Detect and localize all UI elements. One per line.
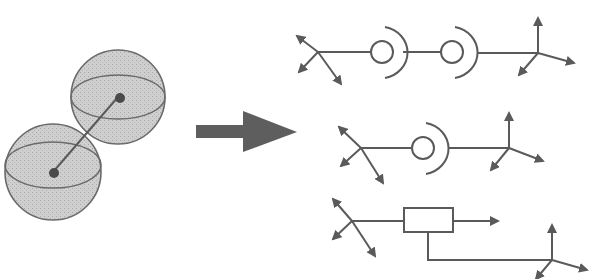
block-element xyxy=(404,208,453,232)
ball-socket-joint-icon xyxy=(371,27,408,78)
transform-arrow-icon xyxy=(196,111,297,152)
coordinate-frame-icon xyxy=(519,18,574,75)
coordinate-frame-icon xyxy=(536,225,587,279)
coordinate-frame-icon xyxy=(339,127,383,183)
representation-row-1 xyxy=(297,18,574,84)
coordinate-frame-icon xyxy=(297,36,341,84)
diagram-canvas xyxy=(0,0,592,279)
ball-socket-joint-icon xyxy=(412,123,449,174)
lower-sphere-center xyxy=(49,168,59,178)
representation-row-3 xyxy=(333,199,587,279)
representation-row-2 xyxy=(339,113,543,183)
coordinate-frame-icon xyxy=(333,199,375,256)
coordinate-frame-icon xyxy=(491,113,543,170)
two-sphere-model xyxy=(5,50,165,220)
ball-socket-joint-icon xyxy=(441,27,478,78)
upper-sphere-center xyxy=(115,93,125,103)
